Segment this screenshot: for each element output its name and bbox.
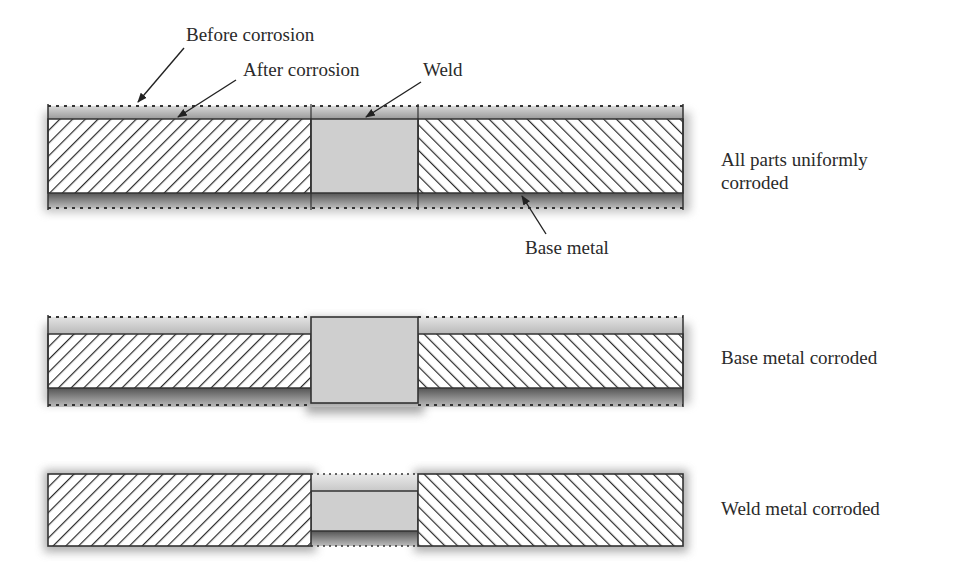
corroded-layer-top [48,106,683,119]
base-metal-left [48,474,311,546]
label-before-corrosion: Before corrosion [186,24,314,46]
base-metal-right [418,119,683,193]
caption-base-metal: Base metal corroded [721,347,877,369]
caption-uniform-line1: All parts uniformly [721,149,868,171]
label-base-metal: Base metal [525,237,609,259]
case-uniform-corrosion [44,48,690,234]
caption-weld-metal: Weld metal corroded [721,498,880,520]
corroded-layer-bottom [48,193,683,208]
weld-metal [311,119,418,193]
label-weld: Weld [423,59,463,81]
arrow-before-corrosion [138,48,184,102]
base-metal-right [418,334,683,388]
weld-metal [311,317,418,403]
base-metal-left [48,334,311,388]
base-metal-left [48,119,311,193]
caption-uniform-line2: corroded [721,172,789,194]
case-weld-metal-corrosion [44,470,688,552]
case-base-metal-corrosion [44,315,690,414]
weld-metal [311,491,418,531]
base-metal-right [418,474,683,546]
label-after-corrosion: After corrosion [243,59,360,81]
